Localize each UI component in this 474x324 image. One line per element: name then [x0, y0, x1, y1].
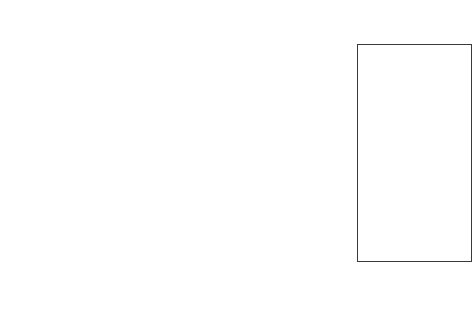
legend-box: [357, 44, 472, 262]
chart-container: [0, 0, 474, 324]
legend-title: [344, 14, 472, 26]
